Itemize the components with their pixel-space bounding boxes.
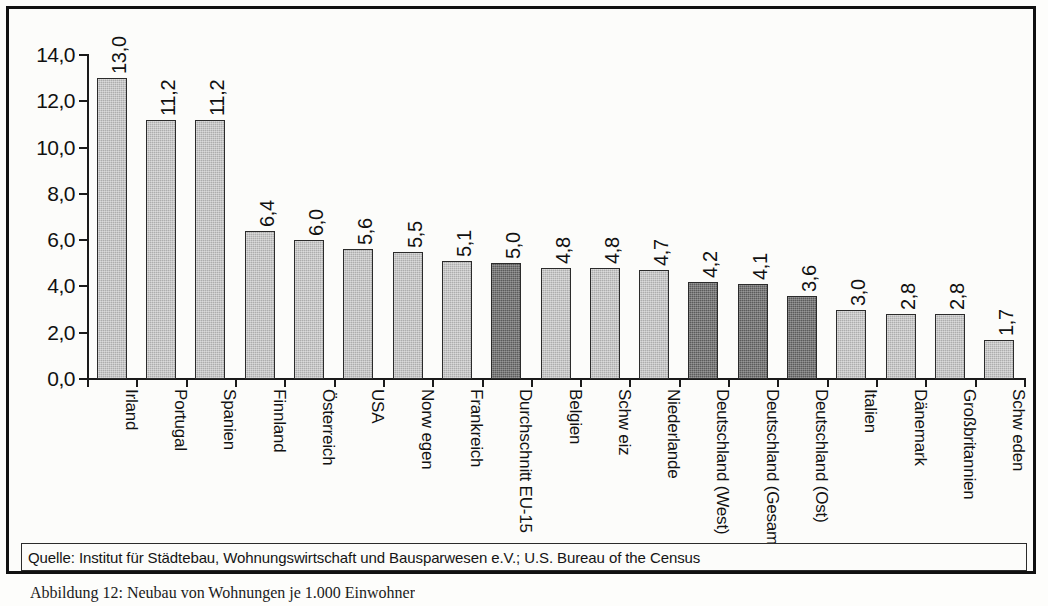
- x-axis-category-label: Frankreich: [466, 389, 486, 467]
- bar-group: 5,1: [442, 55, 472, 379]
- source-note-box: Quelle: Institut für Städtebau, Wohnungs…: [21, 543, 1027, 571]
- bar: [442, 261, 472, 379]
- bar-group: 4,7: [639, 55, 669, 379]
- bar: [343, 249, 373, 379]
- bar-value-label: 5,1: [453, 230, 476, 257]
- bar-group: 3,6: [787, 55, 817, 379]
- bar: [688, 282, 718, 379]
- bar-value-label: 5,6: [354, 219, 377, 246]
- chart-frame: 0,02,04,06,08,010,012,014,0 IrlandPortug…: [6, 6, 1036, 574]
- x-axis-category-label: Niederlande: [663, 389, 683, 478]
- x-axis-tick: [777, 378, 779, 387]
- x-axis-tick: [482, 378, 484, 387]
- x-axis-tick: [284, 378, 286, 387]
- y-axis-tick: [79, 54, 89, 56]
- x-axis-tick: [186, 378, 188, 387]
- x-axis-tick: [679, 378, 681, 387]
- bar-value-label: 2,8: [946, 283, 969, 310]
- scanned-page: 0,02,04,06,08,010,012,014,0 IrlandPortug…: [0, 0, 1048, 606]
- x-axis-category-label: Dänemark: [910, 389, 930, 466]
- x-axis-tick: [1024, 378, 1026, 387]
- x-axis-category-label: Großbritannien: [959, 389, 979, 500]
- x-axis-tick: [136, 378, 138, 387]
- bar-value-label: 4,1: [749, 253, 772, 280]
- bar-value-label: 6,0: [305, 209, 328, 236]
- bar-group: 5,6: [343, 55, 373, 379]
- x-axis-category-label: Deutschland (Gesamt): [762, 389, 782, 555]
- bar-value-label: 11,2: [206, 80, 229, 116]
- x-axis-category-label: Belgien: [565, 389, 585, 444]
- x-axis-tick: [87, 378, 89, 387]
- bar-group: 4,8: [541, 55, 571, 379]
- y-axis-tick: [79, 285, 89, 287]
- bar-group: 4,1: [738, 55, 768, 379]
- bar-group: 2,8: [935, 55, 965, 379]
- x-axis-tick: [334, 378, 336, 387]
- bar-value-label: 3,6: [798, 265, 821, 292]
- y-axis-tick: [79, 239, 89, 241]
- y-axis-tick-label: 8,0: [19, 182, 75, 206]
- bar-group: 4,8: [590, 55, 620, 379]
- x-axis-tick: [531, 378, 533, 387]
- x-axis-category-label: Finnland: [269, 389, 289, 453]
- y-axis-tick-label: 12,0: [19, 89, 75, 113]
- source-note-text: Quelle: Institut für Städtebau, Wohnungs…: [28, 549, 700, 566]
- bar-group: 6,4: [245, 55, 275, 379]
- bar: [146, 120, 176, 379]
- bar-group: 5,0: [491, 55, 521, 379]
- bar: [294, 240, 324, 379]
- x-axis-tick: [383, 378, 385, 387]
- x-axis-tick: [235, 378, 237, 387]
- y-axis-tick: [79, 193, 89, 195]
- bar: [886, 314, 916, 379]
- bar: [787, 296, 817, 379]
- bar: [195, 120, 225, 379]
- figure-caption: Abbildung 12: Neubau von Wohnungen je 1.…: [30, 584, 415, 604]
- x-axis-tick: [580, 378, 582, 387]
- bar-value-label: 13,0: [108, 36, 131, 74]
- x-axis-category-label: Spanien: [219, 389, 239, 450]
- x-axis-tick: [975, 378, 977, 387]
- bar: [738, 284, 768, 379]
- bar-group: 6,0: [294, 55, 324, 379]
- bar: [491, 263, 521, 379]
- bar: [97, 78, 127, 379]
- bar: [639, 270, 669, 379]
- x-axis-category-label: Schw eiz: [614, 389, 634, 455]
- bar-value-label: 5,0: [502, 232, 525, 259]
- y-axis-tick-label: 4,0: [19, 274, 75, 298]
- x-axis-category-label: Portugal: [170, 389, 190, 451]
- x-axis-category-label: USA: [367, 389, 387, 423]
- bar-group: 2,8: [886, 55, 916, 379]
- x-axis-category-label: Österreich: [318, 389, 338, 465]
- bar: [836, 310, 866, 379]
- y-axis-tick-label: 6,0: [19, 228, 75, 252]
- bar: [393, 252, 423, 379]
- bar-value-label: 6,4: [256, 200, 279, 227]
- bar-value-label: 4,7: [650, 239, 673, 266]
- bar-group: 4,2: [688, 55, 718, 379]
- bar: [245, 231, 275, 379]
- bar-group: 11,2: [195, 55, 225, 379]
- y-axis-tick-label: 0,0: [19, 367, 75, 391]
- y-axis-tick: [79, 332, 89, 334]
- x-axis-category-label: Italien: [860, 389, 880, 433]
- bar-group: 3,0: [836, 55, 866, 379]
- x-axis-tick: [925, 378, 927, 387]
- y-axis-tick-label: 2,0: [19, 321, 75, 345]
- x-axis-category-label: Irland: [121, 389, 141, 430]
- bar-value-label: 3,0: [847, 279, 870, 306]
- bar-value-label: 4,2: [699, 251, 722, 278]
- bar: [935, 314, 965, 379]
- bar-group: 11,2: [146, 55, 176, 379]
- y-axis-tick-label: 10,0: [19, 136, 75, 160]
- x-axis-category-label: Norw egen: [417, 389, 437, 469]
- bar-group: 5,5: [393, 55, 423, 379]
- bar-group: 1,7: [984, 55, 1014, 379]
- x-axis-category-label: Deutschland (Ost): [811, 389, 831, 523]
- bar-group: 13,0: [97, 55, 127, 379]
- x-axis-tick: [876, 378, 878, 387]
- bar-value-label: 5,5: [404, 221, 427, 248]
- bar: [541, 268, 571, 379]
- x-axis-category-label: Deutschland (West): [712, 389, 732, 534]
